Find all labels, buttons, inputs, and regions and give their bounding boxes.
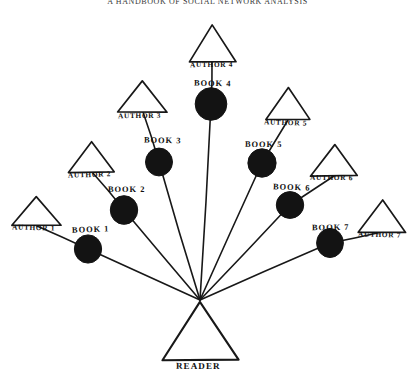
book-label-book-7: BOOK 7 — [312, 223, 350, 232]
book-label-book-5: BOOK 5 — [245, 140, 282, 149]
edge-book-5-to-reader — [200, 163, 262, 300]
book-node-book-1[interactable] — [74, 235, 101, 263]
author-label-author-1: AUTHOR 1 — [12, 222, 55, 232]
edge-book-7-to-reader — [200, 243, 330, 300]
book-label-book-6: BOOK 6 — [273, 182, 311, 192]
author-triangle-author-2[interactable] — [68, 142, 114, 173]
book-label-book-1: BOOK 1 — [72, 224, 110, 234]
reader-triangle[interactable] — [162, 302, 238, 360]
book-node-book-5[interactable] — [248, 149, 276, 177]
book-node-book-6[interactable] — [276, 192, 303, 219]
book-label-book-4: BOOK 4 — [194, 79, 232, 89]
shapes-layer — [12, 25, 406, 360]
author-label-author-4: AUTHOR 4 — [190, 60, 233, 69]
book-node-book-4[interactable] — [195, 88, 227, 121]
edge-book-6-to-reader — [200, 205, 290, 300]
network-diagram-svg — [0, 0, 415, 383]
author-label-author-7: AUTHOR 7 — [358, 230, 401, 240]
edge-book-1-to-reader — [88, 249, 200, 300]
book-node-book-2[interactable] — [110, 196, 137, 225]
author-label-author-6: AUTHOR 6 — [310, 173, 353, 183]
author-triangle-author-1[interactable] — [12, 197, 61, 226]
author-triangle-author-7[interactable] — [358, 200, 405, 233]
author-triangle-author-6[interactable] — [310, 145, 357, 177]
edge-book-2-to-reader — [124, 210, 200, 300]
author-triangle-author-4[interactable] — [189, 25, 236, 62]
author-triangle-author-3[interactable] — [118, 81, 167, 112]
book-label-book-3: BOOK 3 — [144, 136, 182, 146]
author-label-author-5: AUTHOR 5 — [264, 117, 307, 127]
edge-book-3-to-reader — [159, 162, 200, 300]
book-node-book-3[interactable] — [146, 148, 173, 176]
author-label-author-2: AUTHOR 2 — [68, 169, 111, 180]
author-triangle-author-5[interactable] — [266, 88, 310, 120]
reader-label: READER — [176, 361, 221, 371]
author-label-author-3: AUTHOR 3 — [118, 111, 161, 121]
book-label-book-2: BOOK 2 — [108, 185, 145, 194]
book-node-book-7[interactable] — [317, 228, 344, 257]
edge-book-4-to-reader — [200, 104, 211, 300]
diagram-canvas: A HANDBOOK OF SOCIAL NETWORK ANALYSIS AU… — [0, 0, 415, 383]
